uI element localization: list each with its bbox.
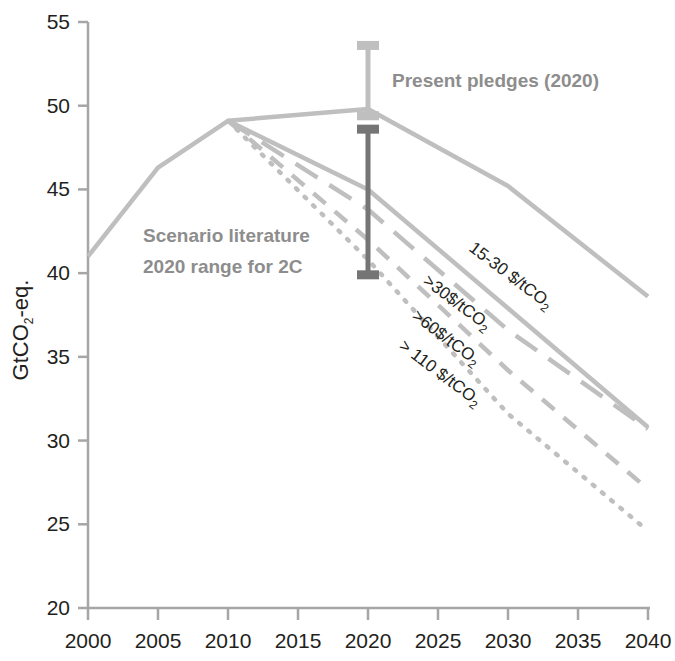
svg-text:GtCO2-eq.: GtCO2-eq. <box>8 280 36 381</box>
x-tick-label: 2040 <box>625 629 672 652</box>
x-tick-label: 2025 <box>415 629 462 652</box>
y-tick-label: 25 <box>47 512 70 535</box>
x-tick-label: 2015 <box>275 629 322 652</box>
y-tick-label: 30 <box>47 429 70 452</box>
scenario-literature-line1: Scenario literature <box>143 225 310 246</box>
x-tick-label: 2030 <box>485 629 532 652</box>
scenario-literature-line2: 2020 range for 2C <box>143 256 303 277</box>
x-tick-label: 2000 <box>65 629 112 652</box>
y-tick-label: 40 <box>47 261 70 284</box>
x-tick-label: 2010 <box>205 629 252 652</box>
x-tick-label: 2020 <box>345 629 392 652</box>
x-axis-tick-labels: 200020052010201520202025203020352040 <box>65 629 672 652</box>
y-tick-label: 55 <box>47 10 70 33</box>
x-tick-label: 2005 <box>135 629 182 652</box>
chart-canvas: 2025303540455055 20002005201020152020202… <box>0 0 675 661</box>
y-tick-label: 20 <box>47 596 70 619</box>
x-tick-label: 2035 <box>555 629 602 652</box>
y-axis-title: GtCO2-eq. <box>8 280 36 381</box>
y-tick-label: 35 <box>47 345 70 368</box>
present-pledges: Present pledges (2020) <box>392 70 599 91</box>
y-tick-label: 45 <box>47 177 70 200</box>
y-axis-title-tail: -eq. <box>8 280 33 318</box>
chart-background <box>0 0 675 661</box>
y-axis-title-main: GtCO <box>8 324 33 380</box>
y-tick-label: 50 <box>47 94 70 117</box>
emissions-pathways-chart: 2025303540455055 20002005201020152020202… <box>0 0 675 661</box>
